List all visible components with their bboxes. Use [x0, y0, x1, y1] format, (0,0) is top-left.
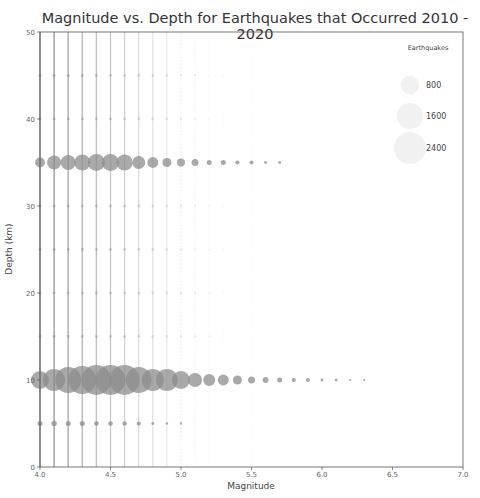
- small-marker: [222, 335, 225, 338]
- bubble-marker: [264, 161, 267, 164]
- bubble-marker: [108, 421, 113, 426]
- small-marker: [95, 335, 98, 338]
- bubble-marker: [94, 421, 99, 426]
- bubble-marker: [249, 160, 253, 164]
- bubble-marker: [292, 378, 296, 382]
- small-marker: [109, 292, 112, 295]
- y-axis-label: Depth (km): [4, 223, 14, 274]
- small-marker: [180, 205, 183, 208]
- small-marker: [151, 205, 154, 208]
- small-marker: [151, 74, 154, 77]
- small-marker: [53, 74, 56, 77]
- legend-marker: [394, 132, 426, 164]
- small-marker: [222, 118, 225, 121]
- small-marker: [208, 292, 211, 295]
- small-marker: [194, 118, 197, 121]
- bubble-marker: [51, 421, 56, 426]
- bubble-marker: [248, 376, 255, 383]
- bubble-marker: [80, 421, 85, 426]
- small-marker: [151, 335, 154, 338]
- y-tick-label: 50: [26, 29, 35, 37]
- small-marker: [123, 335, 126, 338]
- small-marker: [208, 335, 211, 338]
- small-marker: [109, 335, 112, 338]
- bubble-marker: [277, 377, 282, 382]
- y-tick-label: 20: [26, 290, 35, 298]
- small-marker: [67, 335, 70, 338]
- small-marker: [67, 205, 70, 208]
- small-marker: [123, 292, 126, 295]
- small-marker: [194, 74, 197, 77]
- x-axis-label: Magnitude: [227, 481, 275, 491]
- small-marker: [166, 248, 169, 251]
- bubble-marker: [363, 379, 365, 381]
- bubble-marker: [233, 375, 242, 384]
- bubble-marker: [132, 156, 145, 169]
- legend-label: 1600: [426, 112, 446, 121]
- bubble-marker: [192, 159, 199, 166]
- small-marker: [194, 292, 197, 295]
- small-marker: [53, 292, 56, 295]
- y-tick-label: 10: [26, 377, 35, 385]
- bubble-marker: [207, 160, 212, 165]
- bubble-marker: [61, 155, 76, 170]
- size-legend: Earthquakes 80016002400: [394, 44, 449, 164]
- small-marker: [222, 205, 225, 208]
- small-marker: [194, 248, 197, 251]
- bubble-marker: [151, 422, 154, 425]
- small-marker: [180, 74, 183, 77]
- small-marker: [180, 292, 183, 295]
- small-marker: [53, 248, 56, 251]
- small-marker: [222, 248, 225, 251]
- bubble-markers: [31, 154, 365, 426]
- small-marker: [67, 74, 70, 77]
- legend-title: Earthquakes: [408, 44, 449, 52]
- small-marker: [208, 118, 211, 121]
- bubble-marker: [166, 422, 169, 425]
- small-marker: [137, 335, 140, 338]
- small-marker: [194, 205, 197, 208]
- small-marker: [123, 248, 126, 251]
- bubble-marker: [180, 422, 182, 424]
- y-tick-label: 0: [31, 464, 35, 472]
- small-marker: [53, 205, 56, 208]
- small-marker: [109, 205, 112, 208]
- bubble-marker: [47, 155, 61, 169]
- small-marker: [166, 118, 169, 121]
- x-tick-label: 4.5: [105, 471, 116, 479]
- bubble-marker: [218, 375, 229, 386]
- small-marker: [81, 205, 84, 208]
- small-marker: [53, 118, 56, 121]
- x-tick-label: 6.5: [387, 471, 398, 479]
- small-marker: [109, 118, 112, 121]
- small-marker: [81, 74, 84, 77]
- small-marker: [180, 248, 183, 251]
- x-axis-ticks: 4.04.55.05.56.06.57.0: [34, 467, 468, 479]
- x-tick-label: 7.0: [457, 471, 468, 479]
- small-marker: [109, 74, 112, 77]
- small-marker: [194, 335, 197, 338]
- legend-marker: [401, 76, 419, 94]
- bubble-marker: [117, 155, 133, 171]
- small-marker: [123, 74, 126, 77]
- small-marker: [222, 74, 225, 77]
- small-marker: [151, 118, 154, 121]
- bubble-marker: [278, 161, 281, 164]
- small-marker: [53, 335, 56, 338]
- bubble-marker: [221, 160, 226, 165]
- small-marker: [222, 292, 225, 295]
- small-marker: [81, 292, 84, 295]
- small-marker: [81, 118, 84, 121]
- bubble-marker: [137, 421, 141, 425]
- x-tick-label: 6.0: [316, 471, 327, 479]
- y-tick-label: 40: [26, 116, 35, 124]
- small-marker: [166, 335, 169, 338]
- scatter-plot: 4.04.55.05.56.06.57.0 01020304050 Magnit…: [0, 0, 480, 498]
- small-marker: [151, 292, 154, 295]
- x-tick-label: 4.0: [34, 471, 45, 479]
- legend-label: 2400: [426, 144, 446, 153]
- bubble-marker: [122, 421, 126, 425]
- small-marker: [137, 118, 140, 121]
- bubble-marker: [349, 379, 351, 381]
- bubble-marker: [235, 160, 239, 164]
